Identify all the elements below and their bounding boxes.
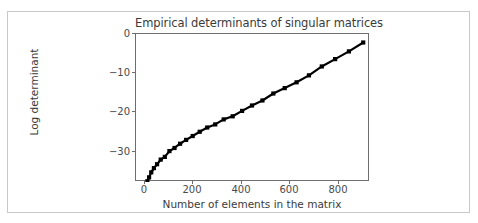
data-point (191, 134, 195, 138)
series-line (147, 43, 363, 182)
data-point (361, 40, 365, 44)
x-axis-label: Number of elements in the matrix (135, 198, 369, 210)
y-axis-label: Log determinant (28, 22, 40, 162)
x-tick-label: 400 (231, 184, 250, 195)
data-point (184, 138, 188, 142)
data-point (283, 86, 287, 90)
data-point (198, 130, 202, 134)
data-point (213, 122, 217, 126)
data-point (260, 98, 264, 102)
data-point (147, 175, 151, 179)
data-point (159, 157, 163, 161)
data-point (240, 109, 244, 113)
chart-title: Empirical determinants of singular matri… (135, 16, 369, 30)
x-tick-label: 600 (279, 184, 298, 195)
data-point (149, 170, 153, 174)
data-point (152, 166, 156, 170)
data-point (271, 91, 275, 95)
data-point (178, 142, 182, 146)
data-point (250, 103, 254, 107)
x-tick-label: 200 (182, 184, 201, 195)
plot-area (135, 33, 369, 181)
figure-card: Empirical determinants of singular matri… (7, 11, 470, 213)
data-point (231, 114, 235, 118)
data-point (155, 162, 159, 166)
data-point (205, 125, 209, 129)
matplotlib-figure: Empirical determinants of singular matri… (8, 12, 471, 214)
data-series-plot (136, 34, 370, 182)
data-point (167, 149, 171, 153)
data-point (347, 49, 351, 53)
screenshot-root: Empirical determinants of singular matri… (0, 0, 478, 223)
data-point (307, 73, 311, 77)
data-point (222, 117, 226, 121)
data-point (163, 155, 167, 159)
data-point (320, 64, 324, 68)
data-point (295, 80, 299, 84)
x-tick-label: 0 (141, 184, 147, 195)
y-tick-label: −10 (109, 67, 130, 78)
y-tick-label: −20 (109, 106, 130, 117)
data-point (333, 57, 337, 61)
y-tick-label: −30 (109, 146, 130, 157)
data-point (145, 179, 149, 182)
x-tick-label: 800 (328, 184, 347, 195)
data-point (172, 146, 176, 150)
y-tick-label: 0 (124, 28, 130, 39)
